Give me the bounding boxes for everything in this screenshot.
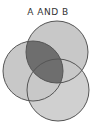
venn-diagram [0, 0, 96, 136]
